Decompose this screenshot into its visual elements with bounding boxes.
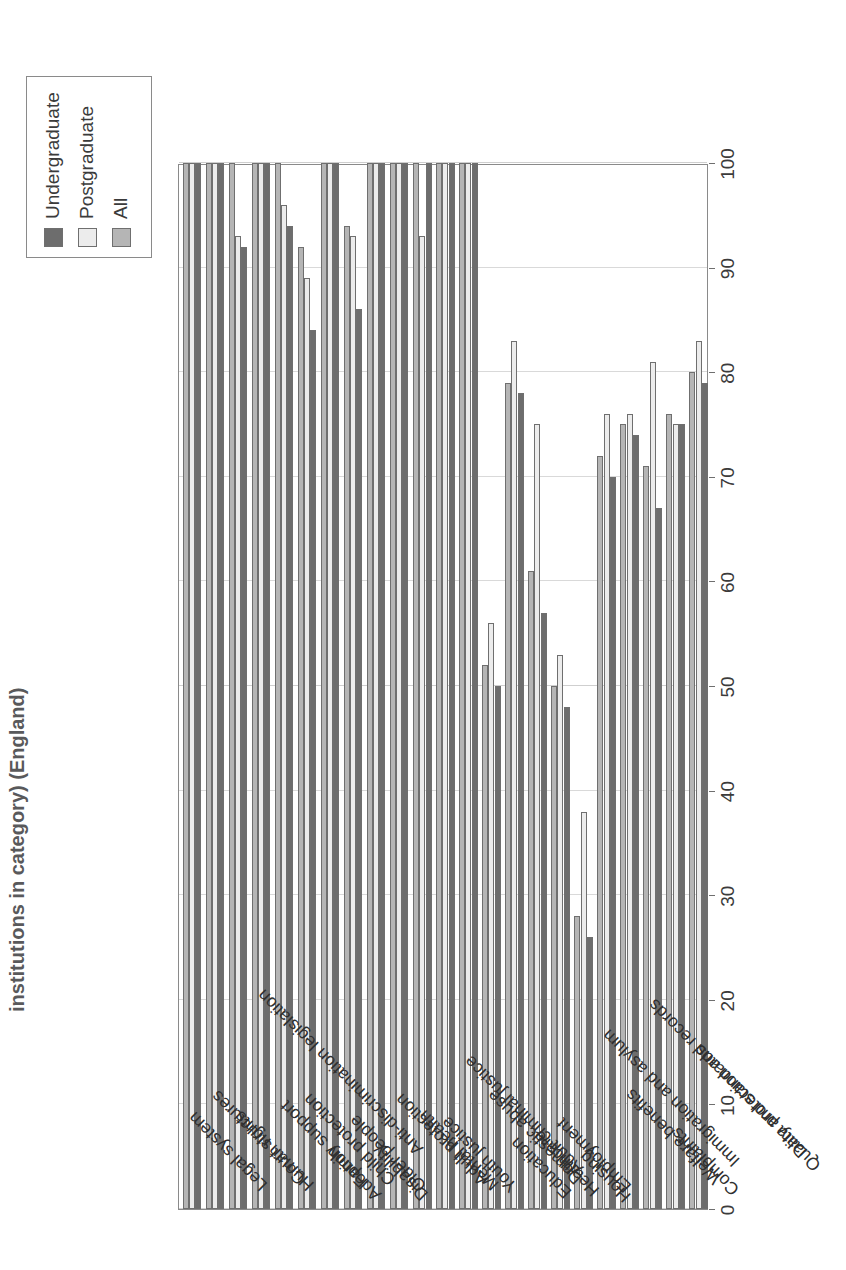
axis-tick-80: [709, 372, 715, 373]
bar-postgraduate[interactable]: [258, 163, 264, 1209]
bar-all[interactable]: [597, 456, 603, 1209]
bar-postgraduate[interactable]: [465, 163, 471, 1209]
bar-postgraduate[interactable]: [511, 341, 517, 1209]
bar-undergraduate[interactable]: [656, 508, 662, 1209]
axis-tick-100: [709, 163, 715, 164]
bar-undergraduate[interactable]: [218, 163, 224, 1209]
bar-all[interactable]: [183, 163, 189, 1209]
bar-all[interactable]: [275, 163, 281, 1209]
bar-undergraduate[interactable]: [564, 707, 570, 1209]
bar-all[interactable]: [321, 163, 327, 1209]
bar-postgraduate[interactable]: [212, 163, 218, 1209]
bar-undergraduate[interactable]: [610, 477, 616, 1209]
chart-figure: institutions in category) (England) Unde…: [0, 0, 846, 1270]
bar-postgraduate[interactable]: [327, 163, 333, 1209]
bar-all[interactable]: [436, 163, 442, 1209]
bar-all[interactable]: [482, 665, 488, 1209]
bar-group: [271, 165, 294, 1209]
bar-undergraduate[interactable]: [402, 163, 408, 1209]
bar-postgraduate[interactable]: [581, 812, 587, 1209]
bar-group: [248, 165, 271, 1209]
bar-group: [479, 165, 502, 1209]
bar-group: [456, 165, 479, 1209]
legend-label-postgraduate: Postgraduate: [76, 106, 98, 219]
bar-undergraduate[interactable]: [633, 435, 639, 1209]
bar-postgraduate[interactable]: [650, 362, 656, 1209]
bar-postgraduate[interactable]: [604, 414, 610, 1209]
bar-undergraduate[interactable]: [287, 226, 293, 1209]
bar-postgraduate[interactable]: [350, 236, 356, 1209]
bar-postgraduate[interactable]: [627, 414, 633, 1209]
axis-tick-40: [709, 791, 715, 792]
bar-group: [340, 165, 363, 1209]
bar-all[interactable]: [206, 163, 212, 1209]
bar-undergraduate[interactable]: [679, 425, 685, 1210]
bar-postgraduate[interactable]: [442, 163, 448, 1209]
bar-all[interactable]: [390, 163, 396, 1209]
bar-all[interactable]: [620, 425, 626, 1210]
bar-postgraduate[interactable]: [189, 163, 195, 1209]
bar-all[interactable]: [505, 383, 511, 1209]
bar-postgraduate[interactable]: [373, 163, 379, 1209]
bar-group: [409, 165, 432, 1209]
axis-tick-label-100: 100: [717, 148, 739, 180]
bar-undergraduate[interactable]: [587, 937, 593, 1209]
bar-undergraduate[interactable]: [426, 163, 432, 1209]
bar-all[interactable]: [252, 163, 258, 1209]
bar-undergraduate[interactable]: [518, 393, 524, 1209]
legend-swatch-undergraduate: [44, 228, 63, 247]
bar-postgraduate[interactable]: [488, 623, 494, 1209]
bar-all[interactable]: [344, 226, 350, 1209]
chart-screenshot: institutions in category) (England) Unde…: [0, 0, 846, 1270]
bar-group: [317, 165, 340, 1209]
bar-postgraduate[interactable]: [235, 236, 241, 1209]
axis-tick-label-70: 70: [717, 467, 739, 488]
axis-tick-label-80: 80: [717, 363, 739, 384]
bar-undergraduate[interactable]: [356, 309, 362, 1209]
bar-group: [548, 165, 571, 1209]
bar-group: [525, 165, 548, 1209]
bar-undergraduate[interactable]: [472, 163, 478, 1209]
bar-postgraduate[interactable]: [557, 655, 563, 1209]
legend-item-postgraduate[interactable]: Postgraduate: [70, 87, 104, 247]
axis-tick-0: [709, 1209, 715, 1210]
bar-group: [502, 165, 525, 1209]
bar-all[interactable]: [367, 163, 373, 1209]
bar-undergraduate[interactable]: [449, 163, 455, 1209]
bar-postgraduate[interactable]: [696, 341, 702, 1209]
bar-all[interactable]: [229, 163, 235, 1209]
bar-all[interactable]: [551, 686, 557, 1209]
legend-item-undergraduate[interactable]: Undergraduate: [36, 87, 70, 247]
bar-postgraduate[interactable]: [419, 236, 425, 1209]
bar-undergraduate[interactable]: [333, 163, 339, 1209]
bar-undergraduate[interactable]: [241, 247, 247, 1209]
bar-group: [594, 165, 617, 1209]
bar-group: [686, 165, 709, 1209]
bar-undergraduate[interactable]: [195, 163, 201, 1209]
bar-undergraduate[interactable]: [310, 330, 316, 1209]
bar-undergraduate[interactable]: [541, 613, 547, 1209]
bar-all[interactable]: [666, 414, 672, 1209]
bar-postgraduate[interactable]: [534, 425, 540, 1210]
bar-all[interactable]: [643, 466, 649, 1209]
bar-postgraduate[interactable]: [396, 163, 402, 1209]
bar-postgraduate[interactable]: [281, 205, 287, 1209]
bar-undergraduate[interactable]: [495, 686, 501, 1209]
bar-postgraduate[interactable]: [673, 425, 679, 1210]
bar-undergraduate[interactable]: [379, 163, 385, 1209]
bar-all[interactable]: [574, 916, 580, 1209]
bar-group: [179, 165, 202, 1209]
bar-postgraduate[interactable]: [304, 278, 310, 1209]
bar-all[interactable]: [413, 163, 419, 1209]
bar-all[interactable]: [528, 571, 534, 1209]
bar-undergraduate[interactable]: [264, 163, 270, 1209]
bar-group: [663, 165, 686, 1209]
bar-group: [294, 165, 317, 1209]
bar-all[interactable]: [459, 163, 465, 1209]
axis-tick-90: [709, 268, 715, 269]
legend-label-undergraduate: Undergraduate: [42, 92, 64, 219]
legend-item-all[interactable]: All: [104, 87, 138, 247]
bar-all[interactable]: [298, 247, 304, 1209]
bar-undergraduate[interactable]: [702, 383, 708, 1209]
bar-all[interactable]: [689, 372, 695, 1209]
